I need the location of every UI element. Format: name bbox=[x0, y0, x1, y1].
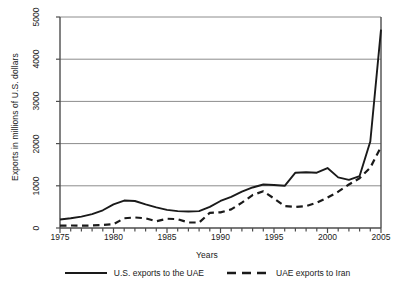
legend-entry-series-1: UAE exports to Iran bbox=[226, 268, 350, 278]
plot-frame bbox=[60, 17, 381, 228]
axis-tick-marks bbox=[56, 17, 381, 233]
plot-area bbox=[0, 0, 414, 289]
legend-label-series-1: UAE exports to Iran bbox=[276, 268, 350, 278]
legend-entry-series-0: U.S. exports to the UAE bbox=[64, 268, 204, 278]
legend-swatch-solid bbox=[64, 268, 108, 278]
legend-swatch-dashed bbox=[226, 268, 270, 278]
series-line-1 bbox=[60, 147, 381, 226]
grid-lines bbox=[60, 17, 381, 186]
chart-legend: U.S. exports to the UAE UAE exports to I… bbox=[0, 268, 414, 278]
legend-label-series-0: U.S. exports to the UAE bbox=[114, 268, 204, 278]
series-line-0 bbox=[60, 30, 381, 220]
chart-figure: Exports in millions of U.S. dollars Year… bbox=[0, 0, 414, 289]
